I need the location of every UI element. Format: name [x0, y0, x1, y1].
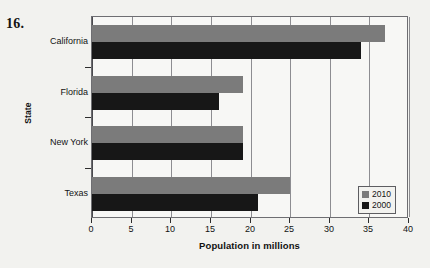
legend-swatch-2000 [362, 202, 369, 209]
x-tick-label-40: 40 [403, 224, 413, 234]
x-tick-label-15: 15 [205, 224, 215, 234]
x-tick-mark-30 [329, 218, 330, 223]
bar-group-florida [92, 76, 407, 110]
x-tick-mark-35 [368, 218, 369, 223]
bar-california-2010 [92, 25, 385, 42]
bar-california-2000 [92, 42, 361, 59]
legend-label-2010: 2010 [372, 190, 391, 199]
gridline-40 [409, 17, 410, 217]
y-category-label-california: California [24, 37, 88, 46]
x-tick-label-35: 35 [363, 224, 373, 234]
x-tick-label-20: 20 [245, 224, 255, 234]
y-axis-category-labels: CaliforniaFloridaNew YorkTexas [24, 16, 88, 218]
bar-group-california [92, 25, 407, 59]
bar-texas-2000 [92, 194, 258, 211]
legend-label-2000: 2000 [372, 201, 391, 210]
legend-item-2010: 2010 [362, 189, 391, 200]
legend-item-2000: 2000 [362, 200, 391, 211]
legend-swatch-2010 [362, 191, 369, 198]
x-tick-mark-5 [131, 218, 132, 223]
bar-group-new-york [92, 126, 407, 160]
x-axis-tick-labels: 0510152025303540 [91, 224, 408, 238]
x-tick-mark-10 [170, 218, 171, 223]
x-axis-title: Population in millions [91, 240, 408, 251]
x-tick-label-5: 5 [128, 224, 133, 234]
x-tick-label-30: 30 [324, 224, 334, 234]
x-tick-label-25: 25 [284, 224, 294, 234]
x-tick-mark-0 [91, 218, 92, 223]
x-tick-label-10: 10 [165, 224, 175, 234]
x-tick-mark-15 [210, 218, 211, 223]
y-category-label-texas: Texas [24, 189, 88, 198]
x-tick-label-0: 0 [88, 224, 93, 234]
y-category-label-new-york: New York [24, 138, 88, 147]
x-tick-mark-25 [289, 218, 290, 223]
question-number: 16. [6, 16, 24, 32]
y-category-label-florida: Florida [24, 88, 88, 97]
bar-new-york-2010 [92, 126, 243, 143]
chart-legend: 20102000 [358, 186, 396, 214]
bar-florida-2000 [92, 93, 219, 110]
x-tick-mark-40 [408, 218, 409, 223]
x-tick-mark-20 [250, 218, 251, 223]
bar-texas-2010 [92, 177, 290, 194]
bar-florida-2010 [92, 76, 243, 93]
bar-new-york-2000 [92, 143, 243, 160]
